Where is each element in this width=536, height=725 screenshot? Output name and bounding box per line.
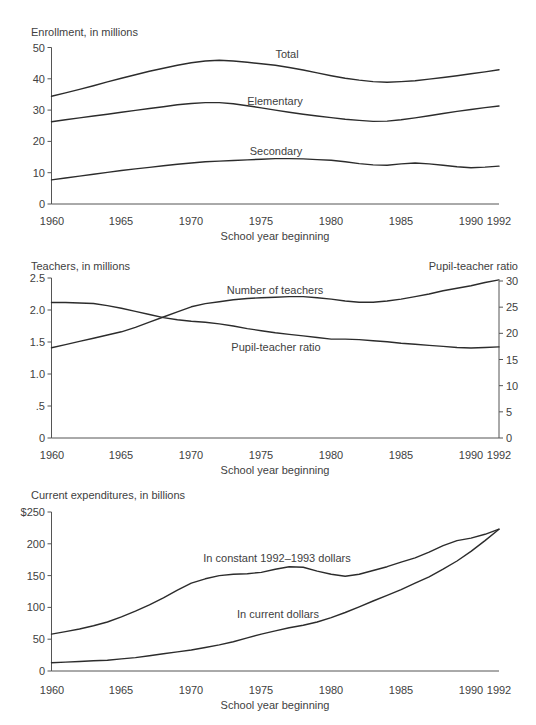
y-tick-label: 2.0 [30,304,45,316]
series-label-pupil-teacher-ratio: Pupil-teacher ratio [231,341,320,353]
x-tick-label: 1992 [487,449,511,461]
x-tick-label: 1965 [109,684,133,696]
right-y-tick-label: 20 [506,327,518,339]
expenditures-chart [48,512,500,671]
y-tick-label: 50 [33,633,45,645]
enrollment-x-axis-label: School year beginning [221,230,330,242]
x-tick-label: 1970 [179,684,203,696]
series-label-elementary: Elementary [247,95,303,107]
y-tick-label: 1.5 [30,336,45,348]
x-tick-label: 1980 [319,215,343,227]
x-tick-label: 1970 [179,215,203,227]
teachers-ratio-chart-axes [52,278,500,438]
x-tick-label: 1990 [459,215,483,227]
x-tick-label: 1965 [109,215,133,227]
y-tick-label: 50 [33,42,45,54]
x-tick-label: 1992 [487,215,511,227]
x-tick-label: 1975 [249,684,273,696]
enrollment-chart-line-total [52,60,500,96]
right-y-tick-label: 5 [506,406,512,418]
right-y-tick-label: 30 [506,275,518,287]
right-y-tick-label: 25 [506,301,518,313]
x-tick-label: 1960 [40,215,64,227]
x-tick-label: 1985 [389,449,413,461]
series-label-current-dollars: In current dollars [237,608,319,620]
expenditures-chart-axes [52,512,500,671]
y-tick-label: .5 [36,400,45,412]
x-tick-label: 1965 [109,449,133,461]
teachers-x-axis-label: School year beginning [221,464,330,476]
y-tick-label: 0 [39,198,45,210]
expenditures-chart-title: Current expenditures, in billions [31,489,185,501]
x-tick-label: 1985 [389,684,413,696]
y-tick-label: 2.5 [30,272,45,284]
series-label-number-of-teachers: Number of teachers [227,284,324,296]
right-y-tick-label: 10 [506,380,518,392]
x-tick-label: 1980 [319,449,343,461]
x-tick-label: 1992 [487,684,511,696]
teachers-chart-title: Teachers, in millions [31,260,130,272]
right-y-tick-label: 15 [506,354,518,366]
x-tick-label: 1975 [249,215,273,227]
y-tick-label: 0 [39,665,45,677]
x-tick-label: 1985 [389,215,413,227]
x-tick-label: 1975 [249,449,273,461]
teachers-ratio-chart [48,278,504,438]
x-tick-label: 1970 [179,449,203,461]
series-label-constant-dollars: In constant 1992–1993 dollars [203,552,350,564]
series-label-total: Total [275,48,298,60]
x-tick-label: 1990 [459,684,483,696]
right-y-tick-label: 0 [506,432,512,444]
x-tick-label: 1960 [40,449,64,461]
expenditures-x-axis-label: School year beginning [221,699,330,711]
pupil-teacher-right-axis-title: Pupil-teacher ratio [429,260,518,272]
y-tick-label: 10 [33,167,45,179]
expenditures-chart-line-in-current-dollars [52,529,500,663]
y-tick-label: $250 [21,506,45,518]
y-tick-label: 200 [27,538,45,550]
y-tick-label: 20 [33,135,45,147]
y-tick-label: 40 [33,73,45,85]
x-tick-label: 1990 [459,449,483,461]
statistics-figure-page: Enrollment, in millions Total Elementary… [0,0,536,725]
series-label-secondary: Secondary [250,145,303,157]
enrollment-chart-axes [52,48,500,205]
y-tick-label: 150 [27,570,45,582]
y-tick-label: 1.0 [30,368,45,380]
enrollment-chart [48,48,500,205]
enrollment-chart-line-secondary [52,159,500,180]
enrollment-chart-title: Enrollment, in millions [31,26,138,38]
x-tick-label: 1960 [40,684,64,696]
y-tick-label: 100 [27,601,45,613]
y-tick-label: 0 [39,432,45,444]
x-tick-label: 1980 [319,684,343,696]
y-tick-label: 30 [33,104,45,116]
